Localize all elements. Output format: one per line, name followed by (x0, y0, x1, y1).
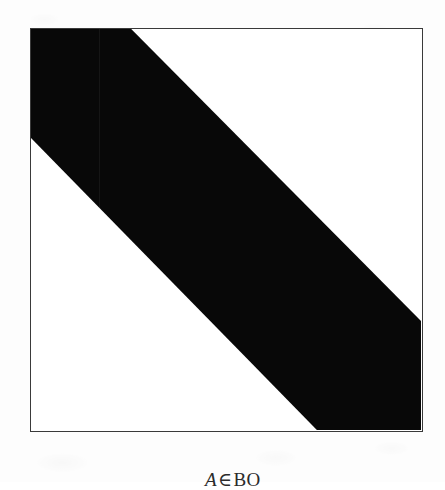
caption-set-name: BO (233, 469, 260, 490)
caption-element-of-symbol: ∈ (217, 469, 233, 490)
caption-variable: A (205, 469, 217, 490)
diagonal-band-svg (31, 29, 421, 430)
diagonal-band-shape (31, 29, 421, 430)
figure-caption: A∈BO (0, 441, 445, 490)
figure-frame (30, 28, 423, 432)
